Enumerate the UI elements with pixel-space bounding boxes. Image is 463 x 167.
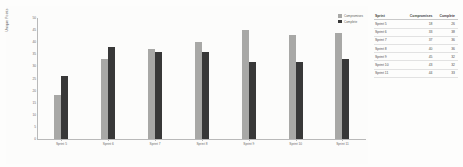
cell-complete: 32 (435, 53, 458, 61)
table-row: Sprint 84036 (374, 44, 458, 52)
bar-complete-sprint-6 (108, 47, 115, 139)
column-header-complete: Complete (435, 12, 458, 20)
cell-complete: 26 (435, 20, 458, 28)
cell-complete: 32 (435, 61, 458, 69)
bar-complete-sprint-9 (249, 62, 256, 139)
table-row: Sprint 94532 (374, 53, 458, 61)
bar-complete-sprint-8 (202, 52, 209, 139)
cell-complete: 36 (435, 44, 458, 52)
x-tick-mark (249, 139, 250, 141)
bar-chart: Unique Points 05101520253035404550 Sprin… (6, 6, 368, 164)
bar-compromises-sprint-11 (335, 33, 342, 139)
y-tick-label: 0 (34, 137, 36, 141)
cell-complete: 36 (435, 36, 458, 44)
cell-sprint: Sprint 9 (374, 53, 404, 61)
y-tick-label: 30 (32, 64, 36, 68)
y-tick-label: 20 (32, 89, 36, 93)
cell-sprint: Sprint 5 (374, 20, 404, 28)
cell-compromises: 33 (404, 28, 435, 36)
column-header-compromises: Compromises (404, 12, 435, 20)
bar-compromises-sprint-6 (101, 59, 108, 139)
legend-swatch-compromises (338, 14, 342, 17)
x-tick-label: Sprint 8 (196, 142, 207, 146)
cell-compromises: 45 (404, 53, 435, 61)
bar-groups: Sprint 5Sprint 6Sprint 7Sprint 8Sprint 9… (38, 18, 366, 139)
table-body: Sprint 51826Sprint 63338Sprint 73736Spri… (374, 20, 458, 77)
data-table-panel: Sprint Compromises Complete Sprint 51826… (374, 12, 458, 78)
y-tick-label: 45 (32, 28, 36, 32)
bar-group: Sprint 5 (54, 18, 68, 139)
x-tick-mark (155, 139, 156, 141)
y-tick-label: 40 (32, 40, 36, 44)
y-tick-label: 25 (32, 77, 36, 81)
x-tick-label: Sprint 7 (150, 142, 161, 146)
x-tick-label: Sprint 9 (243, 142, 254, 146)
cell-sprint: Sprint 10 (374, 61, 404, 69)
column-header-sprint: Sprint (374, 12, 404, 20)
chart-legend: Compromises Complete (336, 13, 365, 25)
cell-sprint: Sprint 8 (374, 44, 404, 52)
x-tick-mark (342, 139, 343, 141)
cell-sprint: Sprint 7 (374, 36, 404, 44)
x-tick-label: Sprint 6 (103, 142, 114, 146)
bar-complete-sprint-10 (296, 62, 303, 139)
legend-label-compromises: Compromises (344, 14, 363, 18)
cell-sprint: Sprint 11 (374, 69, 404, 77)
bar-group: Sprint 10 (289, 18, 303, 139)
x-tick-mark (202, 139, 203, 141)
bar-group: Sprint 8 (195, 18, 209, 139)
x-tick-label: Sprint 10 (289, 142, 302, 146)
bar-compromises-sprint-8 (195, 42, 202, 139)
table-header-row: Sprint Compromises Complete (374, 12, 458, 20)
x-tick-label: Sprint 11 (336, 142, 349, 146)
x-tick-mark (61, 139, 62, 141)
bar-compromises-sprint-7 (148, 49, 155, 139)
table-row: Sprint 73736 (374, 36, 458, 44)
data-table: Sprint Compromises Complete Sprint 51826… (374, 12, 458, 78)
cell-compromises: 44 (404, 69, 435, 77)
x-tick-mark (108, 139, 109, 141)
legend-label-complete: Complete (344, 20, 357, 24)
bar-group: Sprint 9 (242, 18, 256, 139)
bar-complete-sprint-7 (155, 52, 162, 139)
bar-group: Sprint 11 (335, 18, 349, 139)
bar-group: Sprint 7 (148, 18, 162, 139)
bar-complete-sprint-5 (61, 76, 68, 139)
cell-complete: 38 (435, 28, 458, 36)
y-tick-label: 50 (32, 16, 36, 20)
bar-group: Sprint 6 (101, 18, 115, 139)
bar-compromises-sprint-5 (54, 95, 61, 139)
table-row: Sprint 63338 (374, 28, 458, 36)
x-tick-label: Sprint 5 (56, 142, 67, 146)
legend-item: Compromises (338, 14, 363, 18)
cell-compromises: 43 (404, 61, 435, 69)
chart-screenshot: Unique Points 05101520253035404550 Sprin… (0, 0, 463, 167)
y-tick-label: 5 (34, 125, 36, 129)
cell-sprint: Sprint 6 (374, 28, 404, 36)
bar-compromises-sprint-9 (242, 30, 249, 139)
y-tick-label: 35 (32, 52, 36, 56)
legend-item: Complete (338, 20, 363, 24)
cell-complete: 33 (435, 69, 458, 77)
table-row: Sprint 104332 (374, 61, 458, 69)
table-header: Sprint Compromises Complete (374, 12, 458, 20)
x-tick-mark (296, 139, 297, 141)
plot-area: 05101520253035404550 Sprint 5Sprint 6Spr… (37, 18, 366, 140)
table-row: Sprint 51826 (374, 20, 458, 28)
y-tick-label: 15 (32, 101, 36, 105)
cell-compromises: 37 (404, 36, 435, 44)
cell-compromises: 40 (404, 44, 435, 52)
bar-complete-sprint-11 (342, 59, 349, 139)
y-tick-label: 10 (32, 113, 36, 117)
legend-swatch-complete (338, 20, 342, 23)
cell-compromises: 18 (404, 20, 435, 28)
table-row: Sprint 114433 (374, 69, 458, 77)
y-axis-label: Unique Points (5, 0, 9, 54)
bar-compromises-sprint-10 (289, 35, 296, 139)
